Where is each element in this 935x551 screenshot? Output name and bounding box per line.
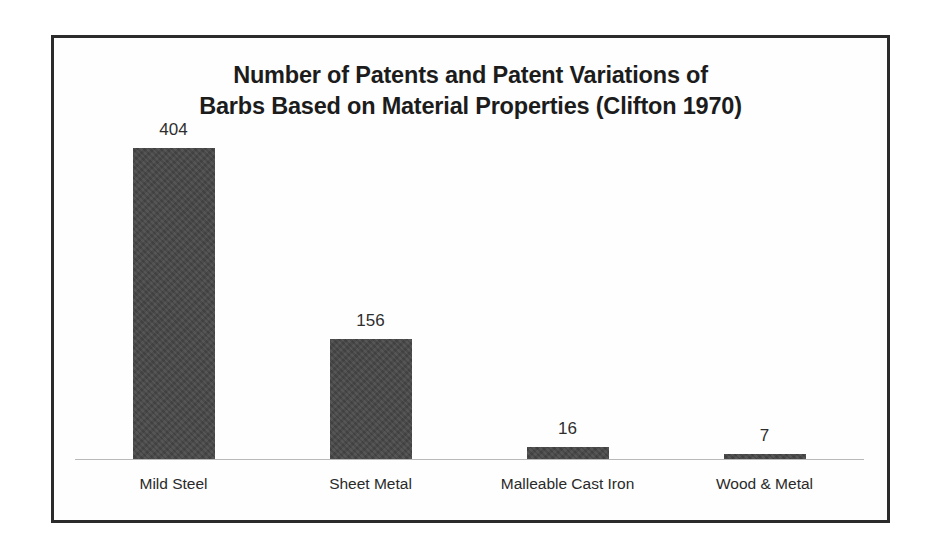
bar-value-wood-and-metal: 7 [760, 426, 769, 445]
bar-slot-mild-steel: 404 [75, 148, 272, 459]
bar-slot-malleable-cast-iron: 16 [469, 148, 666, 459]
bars-layer: 404 156 16 7 [75, 148, 864, 459]
category-label-mild-steel: Mild Steel [75, 474, 272, 494]
bar-malleable-cast-iron[interactable] [527, 447, 609, 459]
chart-page: Number of Patents and Patent Variations … [0, 0, 935, 551]
category-axis-labels: Mild Steel Sheet Metal Malleable Cast Ir… [75, 474, 864, 504]
bar-value-sheet-metal: 156 [356, 311, 384, 330]
category-label-wood-and-metal: Wood & Metal [666, 474, 863, 494]
bar-sheet-metal[interactable] [330, 339, 412, 459]
bar-value-mild-steel: 404 [159, 120, 187, 139]
category-axis-line [75, 459, 864, 460]
category-label-sheet-metal: Sheet Metal [272, 474, 469, 494]
plot-area: 404 156 16 7 Mild Steel [54, 38, 887, 520]
bar-slot-sheet-metal: 156 [272, 148, 469, 459]
bar-value-malleable-cast-iron: 16 [558, 419, 577, 438]
category-label-malleable-cast-iron: Malleable Cast Iron [469, 474, 666, 494]
chart-frame: Number of Patents and Patent Variations … [51, 35, 890, 523]
bar-mild-steel[interactable] [133, 148, 215, 459]
bar-slot-wood-and-metal: 7 [666, 148, 863, 459]
